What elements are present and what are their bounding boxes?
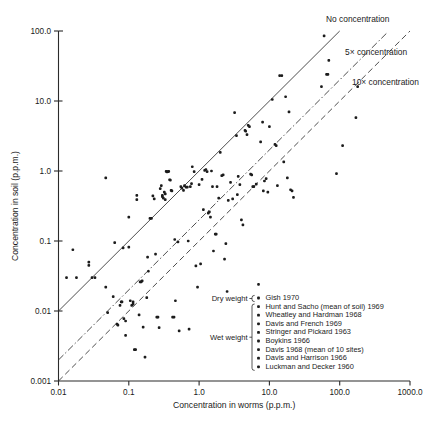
data-point bbox=[201, 178, 204, 181]
data-point bbox=[167, 170, 170, 173]
data-point bbox=[266, 191, 269, 194]
scatter-chart: 0.0010.010.11.010.0100.00.010.11.010.010… bbox=[0, 0, 435, 427]
data-point bbox=[135, 194, 138, 197]
data-point bbox=[327, 73, 330, 76]
reference-line-1 bbox=[59, 31, 340, 311]
data-point bbox=[159, 187, 162, 190]
data-point bbox=[127, 216, 130, 219]
legend-marker-8 bbox=[257, 357, 260, 360]
data-point bbox=[217, 197, 220, 200]
data-point bbox=[199, 263, 202, 266]
data-point bbox=[187, 240, 190, 243]
x-axis-title: Concentration in worms (p.p.m.) bbox=[173, 400, 295, 410]
data-point bbox=[198, 183, 201, 186]
legend-group-label-2: Wet weight bbox=[210, 333, 248, 342]
legend-marker-3 bbox=[257, 314, 260, 317]
data-point bbox=[259, 141, 262, 144]
data-point bbox=[157, 316, 160, 319]
data-point bbox=[87, 264, 90, 267]
x-tick-label-2: 1.0 bbox=[193, 388, 205, 397]
data-point bbox=[252, 185, 255, 188]
data-point bbox=[147, 270, 150, 273]
data-point bbox=[229, 181, 232, 184]
data-point bbox=[206, 170, 209, 173]
data-point bbox=[141, 279, 144, 282]
data-point bbox=[106, 311, 109, 314]
data-point bbox=[237, 175, 240, 178]
data-point bbox=[233, 111, 236, 114]
data-point bbox=[152, 195, 155, 198]
data-point bbox=[226, 290, 229, 293]
data-point bbox=[265, 177, 268, 180]
data-point bbox=[161, 194, 164, 197]
data-point bbox=[246, 133, 249, 136]
y-tick-label-1: 0.01 bbox=[35, 307, 51, 316]
data-point bbox=[112, 295, 115, 298]
data-point bbox=[104, 286, 107, 289]
data-point bbox=[173, 316, 176, 319]
data-point bbox=[341, 144, 344, 147]
data-point bbox=[292, 196, 295, 199]
data-point bbox=[280, 74, 283, 77]
y-axis-title: Concentration in soil (p.p.m.) bbox=[10, 151, 20, 261]
data-point bbox=[202, 208, 205, 211]
legend-marker-9 bbox=[257, 365, 260, 368]
data-point bbox=[121, 301, 124, 304]
data-point bbox=[182, 189, 185, 192]
x-tick-label-3: 10.0 bbox=[261, 388, 277, 397]
x-tick-label-5: 1000.0 bbox=[397, 388, 422, 397]
data-point bbox=[224, 242, 227, 245]
data-point bbox=[250, 174, 253, 177]
data-point bbox=[219, 151, 222, 154]
data-point bbox=[127, 246, 130, 249]
data-point bbox=[169, 179, 172, 182]
data-point bbox=[145, 296, 148, 299]
data-point bbox=[193, 170, 196, 173]
x-tick-label-0: 0.01 bbox=[51, 388, 67, 397]
data-point bbox=[239, 183, 242, 186]
data-point bbox=[320, 85, 323, 88]
data-point bbox=[129, 299, 132, 302]
data-point bbox=[244, 130, 247, 133]
data-point bbox=[158, 326, 161, 329]
annotation-2: 5× concentration bbox=[345, 47, 408, 57]
data-point bbox=[124, 320, 127, 323]
data-point bbox=[191, 165, 194, 168]
data-point bbox=[173, 238, 176, 241]
y-tick-label-0: 0.001 bbox=[31, 377, 52, 386]
data-point bbox=[164, 193, 167, 196]
legend-label-9: Luckman and Decker 1960 bbox=[266, 362, 354, 371]
data-point bbox=[91, 276, 94, 279]
data-point bbox=[87, 261, 90, 264]
data-point bbox=[335, 172, 338, 175]
data-point bbox=[164, 198, 167, 201]
data-point bbox=[209, 216, 212, 219]
data-point bbox=[212, 250, 215, 253]
data-point bbox=[355, 116, 358, 119]
data-point bbox=[222, 174, 225, 177]
data-point bbox=[160, 184, 163, 187]
data-point bbox=[104, 176, 107, 179]
data-point bbox=[188, 328, 191, 331]
data-point bbox=[146, 256, 149, 259]
data-point bbox=[327, 59, 330, 62]
data-point bbox=[271, 98, 274, 101]
data-point bbox=[150, 217, 153, 220]
data-point bbox=[190, 182, 193, 185]
data-point bbox=[263, 180, 266, 183]
data-point bbox=[231, 198, 234, 201]
legend-marker-2 bbox=[257, 305, 260, 308]
legend-group-brace-1 bbox=[252, 295, 255, 301]
data-point bbox=[211, 185, 214, 188]
data-point bbox=[124, 334, 127, 337]
data-point bbox=[208, 211, 211, 214]
legend-marker-7 bbox=[257, 348, 260, 351]
legend-marker-6 bbox=[257, 340, 260, 343]
y-tick-label-3: 1.0 bbox=[40, 167, 52, 176]
data-point bbox=[291, 190, 294, 193]
data-point bbox=[72, 248, 75, 251]
data-point bbox=[284, 95, 287, 98]
data-point bbox=[227, 199, 230, 202]
y-tick-label-4: 10.0 bbox=[35, 97, 51, 106]
y-tick-label-2: 0.1 bbox=[40, 237, 52, 246]
